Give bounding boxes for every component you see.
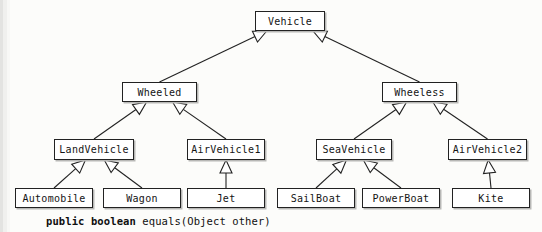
class-box-label: Wheeled	[137, 87, 181, 98]
inheritance-arrowhead-wagon-to-landvehicle	[104, 160, 118, 173]
class-box-label: SeaVehicle	[322, 144, 385, 155]
inheritance-arrowhead-wheeled-to-vehicle	[252, 31, 266, 42]
inheritance-line-seavehicle-to-wheeless	[354, 110, 396, 140]
class-box-label: LandVehicle	[59, 144, 129, 155]
class-box-label: AirVehicle2	[453, 144, 523, 155]
class-box-label: Kite	[478, 193, 503, 204]
inheritance-line-automobile-to-landvehicle	[54, 169, 76, 188]
inheritance-arrowhead-airvehicle1-to-wheeled	[173, 102, 187, 114]
inheritance-line-kite-to-airvehicle2	[490, 173, 492, 188]
inheritance-line-wheeless-to-vehicle	[325, 37, 420, 82]
diagram-page: VehicleWheeledWheelessLandVehicleAirVehi…	[0, 0, 542, 232]
class-box-automobile[interactable]: Automobile	[15, 188, 93, 208]
inheritance-line-wagon-to-landvehicle	[115, 168, 142, 188]
inheritance-line-airvehicle1-to-wheeled	[183, 109, 226, 139]
inheritance-arrowhead-powerboat-to-seavehicle	[363, 160, 377, 173]
class-box-seavehicle[interactable]: SeaVehicle	[316, 139, 392, 160]
inheritance-line-sailboat-to-seavehicle	[316, 169, 337, 188]
class-box-wheeled[interactable]: Wheeled	[122, 82, 197, 102]
inheritance-line-airvehicle2-to-wheeless	[444, 109, 488, 139]
class-box-label: SailBoat	[291, 193, 342, 204]
class-box-label: PowerBoat	[373, 193, 430, 204]
class-box-label: Wagon	[126, 193, 158, 204]
inheritance-line-powerboat-to-seavehicle	[374, 168, 401, 188]
class-box-airvehicle1[interactable]: AirVehicle1	[187, 139, 265, 160]
inheritance-arrowhead-seavehicle-to-wheeless	[393, 102, 407, 114]
inheritance-arrowhead-automobile-to-landvehicle	[72, 160, 86, 173]
class-box-jet[interactable]: Jet	[187, 188, 265, 208]
scan-edge-artifact	[3, 0, 7, 232]
inheritance-line-wheeled-to-vehicle	[160, 37, 256, 82]
inheritance-arrowhead-wheeless-to-vehicle	[313, 31, 327, 42]
class-box-vehicle[interactable]: Vehicle	[255, 11, 325, 31]
figure-caption: public boolean equals(Object other)	[46, 215, 271, 227]
class-box-sailboat[interactable]: SailBoat	[277, 188, 355, 208]
class-box-airvehicle2[interactable]: AirVehicle2	[448, 139, 527, 160]
caption-keyword: public boolean	[46, 215, 136, 227]
inheritance-line-landvehicle-to-wheeled	[94, 110, 136, 140]
class-box-label: Vehicle	[268, 16, 312, 27]
class-box-powerboat[interactable]: PowerBoat	[362, 188, 440, 208]
caption-rest: equals(Object other)	[136, 215, 271, 227]
inheritance-arrowhead-jet-to-airvehicle1	[220, 160, 232, 173]
class-box-label: Automobile	[22, 193, 85, 204]
scan-edge-artifact	[0, 0, 3, 232]
inheritance-arrowhead-sailboat-to-seavehicle	[333, 160, 347, 173]
class-box-kite[interactable]: Kite	[452, 188, 530, 208]
class-box-label: Jet	[217, 193, 236, 204]
scan-edge-artifact	[7, 0, 10, 232]
class-box-label: AirVehicle1	[191, 144, 261, 155]
class-box-label: Wheeless	[394, 87, 445, 98]
inheritance-arrowhead-landvehicle-to-wheeled	[133, 102, 147, 114]
class-box-wheeless[interactable]: Wheeless	[382, 82, 457, 102]
inheritance-arrowhead-airvehicle2-to-wheeless	[433, 102, 447, 114]
class-box-landvehicle[interactable]: LandVehicle	[54, 139, 134, 160]
inheritance-arrowhead-kite-to-airvehicle2	[484, 160, 496, 174]
class-box-wagon[interactable]: Wagon	[103, 188, 181, 208]
